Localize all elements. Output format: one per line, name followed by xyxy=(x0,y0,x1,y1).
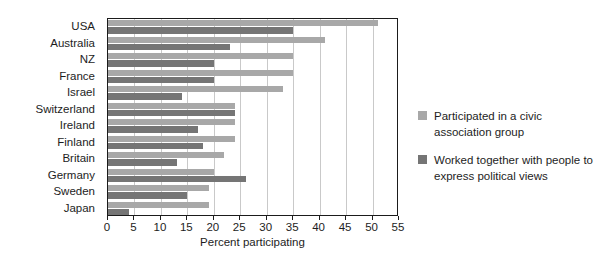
legend-swatch-icon xyxy=(418,155,427,164)
category-label: Germany xyxy=(48,167,95,184)
bar-group xyxy=(108,118,397,135)
bar xyxy=(108,110,235,116)
bar-group xyxy=(108,36,397,53)
bar xyxy=(108,159,177,165)
axis-tick-mark xyxy=(239,216,240,220)
category-label: NZ xyxy=(80,51,95,68)
bar-group xyxy=(108,151,397,168)
axis-tick-label: 10 xyxy=(154,221,167,233)
x-axis-title: Percent participating xyxy=(107,236,398,248)
category-label: Japan xyxy=(64,200,95,217)
category-label: Britain xyxy=(62,150,95,167)
bar-group xyxy=(108,135,397,152)
axis-tick-mark xyxy=(266,216,267,220)
chart-legend: Participated in a civic association grou… xyxy=(418,108,596,196)
legend-item-label: Worked together with people to express p… xyxy=(434,154,593,182)
bar xyxy=(108,169,214,175)
bar xyxy=(108,86,283,92)
axis-tick-mark xyxy=(133,216,134,220)
axis-tick-mark xyxy=(213,216,214,220)
axis-tick-label: 45 xyxy=(339,221,352,233)
axis-tick-mark xyxy=(345,216,346,220)
axis-tick-label: 15 xyxy=(180,221,193,233)
bar-group xyxy=(108,102,397,119)
bar xyxy=(108,152,224,158)
axis-tick-mark xyxy=(107,216,108,220)
bar xyxy=(108,202,209,208)
bar xyxy=(108,126,198,132)
bar xyxy=(108,77,214,83)
category-label: Australia xyxy=(50,35,95,52)
axis-tick-label: 25 xyxy=(233,221,246,233)
bar-chart-figure: USAAustraliaNZFranceIsraelSwitzerlandIre… xyxy=(0,0,602,277)
category-label: Finland xyxy=(57,134,95,151)
axis-tick-label: 5 xyxy=(130,221,136,233)
bar xyxy=(108,93,182,99)
bar xyxy=(108,53,293,59)
axis-tick-label: 35 xyxy=(286,221,299,233)
category-label: USA xyxy=(71,18,95,35)
bar-group xyxy=(108,19,397,36)
category-label: Switzerland xyxy=(36,101,95,118)
category-axis-labels: USAAustraliaNZFranceIsraelSwitzerlandIre… xyxy=(0,18,101,216)
bar xyxy=(108,70,293,76)
legend-item-label: Participated in a civic association grou… xyxy=(434,110,542,138)
axis-tick-label: 30 xyxy=(259,221,272,233)
axis-tick-label: 50 xyxy=(365,221,378,233)
bar-group xyxy=(108,69,397,86)
category-label: France xyxy=(59,68,95,85)
axis-tick-mark xyxy=(292,216,293,220)
legend-swatch-icon xyxy=(418,111,427,120)
category-label: Sweden xyxy=(53,183,95,200)
axis-tick-mark xyxy=(319,216,320,220)
value-axis: 0510152025303540455055 xyxy=(107,216,398,236)
legend-item[interactable]: Worked together with people to express p… xyxy=(418,152,596,184)
bar-group xyxy=(108,201,397,218)
axis-tick-mark xyxy=(186,216,187,220)
axis-tick-mark xyxy=(160,216,161,220)
bar xyxy=(108,103,235,109)
category-label: Ireland xyxy=(60,117,95,134)
bar xyxy=(108,37,325,43)
axis-tick-label: 20 xyxy=(206,221,219,233)
axis-tick-mark xyxy=(398,216,399,220)
bar xyxy=(108,192,187,198)
bar xyxy=(108,27,293,33)
bar xyxy=(108,185,209,191)
bar xyxy=(108,119,235,125)
axis-tick-label: 0 xyxy=(104,221,110,233)
legend-item[interactable]: Participated in a civic association grou… xyxy=(418,108,596,140)
bar xyxy=(108,209,129,215)
bar xyxy=(108,176,246,182)
category-label: Israel xyxy=(67,84,95,101)
bar-group xyxy=(108,85,397,102)
bar xyxy=(108,20,378,26)
axis-tick-label: 40 xyxy=(312,221,325,233)
bar xyxy=(108,136,235,142)
axis-tick-mark xyxy=(372,216,373,220)
bar xyxy=(108,143,203,149)
bar-group xyxy=(108,168,397,185)
bar-group xyxy=(108,52,397,69)
bar xyxy=(108,60,214,66)
bar-group xyxy=(108,184,397,201)
plot-area xyxy=(107,18,398,216)
bar xyxy=(108,44,230,50)
axis-tick-label: 55 xyxy=(392,221,405,233)
